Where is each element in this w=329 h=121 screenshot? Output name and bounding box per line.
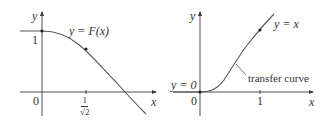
left-point-inflection <box>84 47 87 50</box>
left-y-tick-1: 1 <box>32 34 38 46</box>
right-y-axis-label: y <box>190 10 195 22</box>
right-x-tick-1: 1 <box>257 95 263 107</box>
left-x-tick-label: 1 √2 <box>80 96 89 117</box>
right-point-1-1 <box>258 28 261 31</box>
left-origin-label: 0 <box>33 95 39 107</box>
right-y-zero-label: y = 0 <box>171 79 196 91</box>
transfer-curve-pointer <box>236 64 246 75</box>
left-point-0-1 <box>40 29 43 32</box>
left-x-tick-numerator: 1 <box>81 96 88 107</box>
right-line-label: y = x <box>274 18 299 30</box>
transfer-curve-label: transfer curve <box>248 73 309 84</box>
right-point-origin <box>198 90 201 93</box>
left-y-axis-label: y <box>32 10 37 22</box>
right-x-axis-label: x <box>309 96 314 108</box>
left-x-axis-label: x <box>151 96 156 108</box>
left-curve-label: y = F(x) <box>69 25 109 37</box>
right-origin-label: 0 <box>191 95 197 107</box>
left-x-tick-denominator: √2 <box>80 107 89 117</box>
